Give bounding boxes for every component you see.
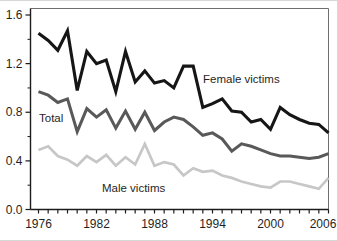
x-tick-label-2006: 2006 <box>310 217 337 231</box>
y-tick-label-2: 0.8 <box>6 105 23 119</box>
series-line-male-victims <box>39 144 329 189</box>
y-tick-label-4: 1.6 <box>6 8 23 22</box>
series-line-total <box>39 92 329 159</box>
chart-canvas: 1976198219881994200020060.00.40.81.21.6M… <box>0 1 338 241</box>
y-tick-label-1: 0.4 <box>6 154 23 168</box>
y-tick-label-3: 1.2 <box>6 57 23 71</box>
x-tick-label-1994: 1994 <box>199 217 226 231</box>
x-tick-label-1988: 1988 <box>141 217 168 231</box>
series-label-male-victims: Male victims <box>102 182 166 194</box>
chart-figure: 1976198219881994200020060.00.40.81.21.6M… <box>0 0 338 241</box>
x-tick-label-1976: 1976 <box>25 217 52 231</box>
series-label-total: Total <box>39 112 63 124</box>
x-tick-label-2000: 2000 <box>257 217 284 231</box>
x-tick-label-1982: 1982 <box>83 217 110 231</box>
y-tick-label-0: 0.0 <box>6 203 23 217</box>
series-label-female-victims: Female victims <box>203 73 280 85</box>
